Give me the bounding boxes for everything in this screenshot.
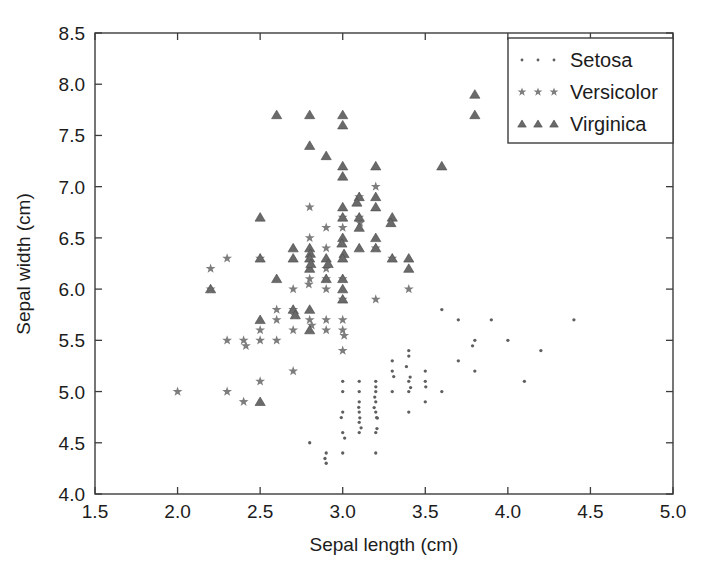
setosa-point bbox=[424, 380, 427, 383]
virginica-point bbox=[255, 213, 265, 222]
versicolor-point bbox=[173, 386, 183, 395]
virginica-point bbox=[338, 120, 348, 129]
setosa-point bbox=[358, 421, 361, 424]
setosa-point bbox=[440, 308, 443, 311]
virginica-point bbox=[371, 202, 381, 211]
virginica-point bbox=[255, 397, 265, 406]
x-tick-label: 2.5 bbox=[247, 501, 273, 522]
setosa-point bbox=[341, 410, 344, 413]
setosa-point bbox=[490, 318, 493, 321]
virginica-point bbox=[387, 254, 397, 263]
setosa-point bbox=[358, 431, 361, 434]
versicolor-point bbox=[305, 315, 315, 324]
plot-canvas: 1.52.02.53.03.54.04.55.0 4.04.55.05.56.0… bbox=[0, 0, 714, 580]
setosa-point bbox=[341, 431, 344, 434]
versicolor-point bbox=[321, 222, 331, 231]
versicolor-point bbox=[272, 335, 282, 344]
setosa-point bbox=[358, 380, 361, 383]
legend-marker-dot bbox=[553, 59, 556, 62]
versicolor-point bbox=[288, 325, 298, 334]
virginica-point bbox=[272, 110, 282, 119]
virginica-point bbox=[338, 213, 348, 222]
versicolor-point bbox=[338, 345, 348, 354]
versicolor-point bbox=[222, 386, 232, 395]
setosa-point bbox=[372, 406, 375, 409]
setosa-point bbox=[407, 380, 410, 383]
setosa-point bbox=[358, 390, 361, 393]
setosa-point bbox=[374, 385, 377, 388]
y-axis-title: Sepal width (cm) bbox=[13, 193, 34, 335]
series-setosa-points bbox=[308, 308, 576, 465]
setosa-point bbox=[409, 386, 412, 389]
virginica-point bbox=[288, 254, 298, 263]
virginica-point bbox=[305, 305, 315, 314]
virginica-point bbox=[272, 274, 282, 283]
virginica-point bbox=[205, 284, 215, 293]
setosa-point bbox=[407, 390, 410, 393]
virginica-point bbox=[338, 161, 348, 170]
setosa-point bbox=[408, 375, 411, 378]
setosa-point bbox=[407, 410, 410, 413]
versicolor-point bbox=[321, 315, 331, 324]
setosa-point bbox=[374, 431, 377, 434]
y-tick-label: 7.5 bbox=[59, 125, 85, 146]
x-tick-label: 3.5 bbox=[412, 501, 438, 522]
virginica-point bbox=[404, 254, 414, 263]
setosa-point bbox=[325, 451, 328, 454]
legend-label: Versicolor bbox=[570, 81, 658, 103]
versicolor-point bbox=[272, 315, 282, 324]
setosa-point bbox=[341, 380, 344, 383]
virginica-point bbox=[338, 284, 348, 293]
versicolor-point bbox=[338, 325, 348, 334]
setosa-point bbox=[359, 426, 362, 429]
setosa-point bbox=[523, 380, 526, 383]
setosa-point bbox=[341, 451, 344, 454]
x-tick-label: 4.5 bbox=[577, 501, 603, 522]
setosa-point bbox=[323, 457, 326, 460]
setosa-point bbox=[340, 416, 343, 419]
setosa-point bbox=[392, 375, 395, 378]
setosa-point bbox=[457, 318, 460, 321]
virginica-point bbox=[371, 233, 381, 242]
setosa-point bbox=[391, 390, 394, 393]
versicolor-point bbox=[239, 335, 249, 344]
versicolor-point bbox=[255, 325, 265, 334]
setosa-point bbox=[343, 436, 346, 439]
versicolor-point bbox=[321, 243, 331, 252]
virginica-point bbox=[338, 295, 348, 304]
setosa-point bbox=[471, 344, 474, 347]
setosa-point bbox=[376, 416, 379, 419]
setosa-point bbox=[341, 390, 344, 393]
versicolor-point bbox=[272, 304, 282, 313]
legend-label: Virginica bbox=[570, 113, 647, 135]
setosa-point bbox=[375, 427, 378, 430]
virginica-point bbox=[338, 172, 348, 181]
setosa-point bbox=[391, 359, 394, 362]
series-virginica-points bbox=[205, 90, 479, 406]
x-tick-label: 2.0 bbox=[164, 501, 190, 522]
y-tick-label: 4.5 bbox=[59, 433, 85, 454]
virginica-point bbox=[354, 223, 364, 232]
x-tick-label: 5.0 bbox=[660, 501, 686, 522]
versicolor-point bbox=[305, 202, 315, 211]
setosa-point bbox=[506, 339, 509, 342]
versicolor-point bbox=[288, 366, 298, 375]
setosa-point bbox=[391, 369, 394, 372]
setosa-point bbox=[473, 339, 476, 342]
setosa-point bbox=[373, 395, 376, 398]
y-tick-label: 5.5 bbox=[59, 330, 85, 351]
setosa-point bbox=[572, 318, 575, 321]
virginica-point bbox=[354, 213, 364, 222]
versicolor-point bbox=[371, 182, 381, 191]
virginica-point bbox=[288, 243, 298, 252]
virginica-point bbox=[321, 254, 331, 263]
x-tick-label: 4.0 bbox=[495, 501, 521, 522]
virginica-point bbox=[437, 161, 447, 170]
setosa-point bbox=[374, 410, 377, 413]
versicolor-point bbox=[255, 335, 265, 344]
virginica-point bbox=[305, 141, 315, 150]
x-tick-label: 1.5 bbox=[82, 501, 108, 522]
versicolor-point bbox=[338, 315, 348, 324]
setosa-point bbox=[358, 416, 361, 419]
virginica-point bbox=[338, 274, 348, 283]
